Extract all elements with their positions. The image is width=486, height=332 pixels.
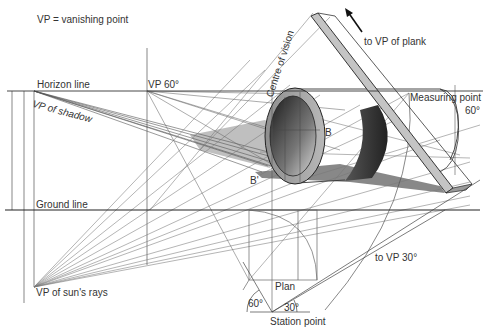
left-construction-lines — [12, 91, 34, 303]
to-vp-30-label: to VP 30° — [375, 252, 417, 263]
vp60-label: VP 60° — [148, 79, 179, 90]
vp-of-suns-rays-label: VP of sun's rays — [36, 287, 108, 298]
station-point-label: Station point — [270, 316, 326, 327]
measuring-angle-label: 60° — [465, 105, 480, 116]
to-vp-of-plank-label: to VP of plank — [364, 36, 426, 47]
station-angle-right-label: 30° — [284, 302, 299, 313]
measuring-point-label: Measuring point — [410, 92, 481, 103]
cylinder-inner — [270, 96, 316, 176]
point-b-prime-label: B' — [250, 175, 259, 186]
plank-vp-arrow-icon — [345, 8, 362, 32]
legend-note: VP = vanishing point — [37, 14, 128, 25]
station-lines — [243, 180, 480, 312]
station-angle-left-label: 60° — [248, 298, 263, 309]
plan-drawing — [243, 210, 317, 290]
perspective-diagram — [0, 0, 486, 332]
point-b-label: B — [325, 127, 332, 138]
horizon-line-label: Horizon line — [37, 79, 90, 90]
ground-line-label: Ground line — [36, 199, 88, 210]
plan-label: Plan — [275, 281, 295, 292]
